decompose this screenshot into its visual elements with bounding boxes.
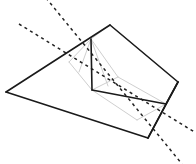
figure-root	[0, 0, 196, 164]
ridge-vertical	[91, 39, 92, 90]
diagram-background	[0, 0, 196, 164]
geometry-diagram	[0, 0, 196, 164]
